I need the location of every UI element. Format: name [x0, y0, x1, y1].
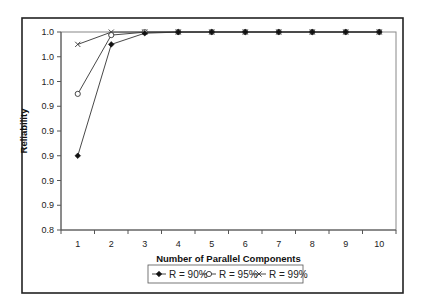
y-tick-label: 1.0	[41, 27, 54, 37]
x-tick-label: 3	[142, 239, 147, 249]
y-tick-label: 0.9	[41, 151, 54, 161]
y-tick-label: 1.0	[41, 77, 54, 87]
circle-marker-icon	[206, 271, 211, 276]
circle-marker-icon	[109, 32, 114, 37]
x-tick-label: 5	[209, 239, 214, 249]
legend: R = 90%R = 95%R = 99%	[148, 265, 308, 283]
y-tick-label: 1.0	[41, 52, 54, 62]
y-tick-label: 0.9	[41, 101, 54, 111]
legend-label: R = 99%	[269, 269, 308, 280]
legend-label: R = 95%	[219, 269, 258, 280]
x-tick-label: 2	[109, 239, 114, 249]
legend-label: R = 90%	[169, 269, 208, 280]
y-tick-label: 0.9	[41, 200, 54, 210]
x-tick-label: 4	[176, 239, 181, 249]
x-tick-label: 6	[243, 239, 248, 249]
x-tick-label: 1	[75, 239, 80, 249]
y-tick-label: 0.9	[41, 176, 54, 186]
x-tick-label: 8	[310, 239, 315, 249]
y-axis-title: Reliability	[18, 108, 29, 154]
y-tick-label: 0.9	[41, 126, 54, 136]
circle-marker-icon	[75, 91, 80, 96]
reliability-chart: 0.80.90.90.90.90.91.01.01.012345678910 N…	[0, 0, 426, 307]
x-tick-label: 7	[276, 239, 281, 249]
x-tick-label: 9	[343, 239, 348, 249]
x-axis-title: Number of Parallel Components	[156, 253, 301, 264]
x-tick-label: 10	[374, 239, 384, 249]
y-tick-label: 0.8	[41, 225, 54, 235]
